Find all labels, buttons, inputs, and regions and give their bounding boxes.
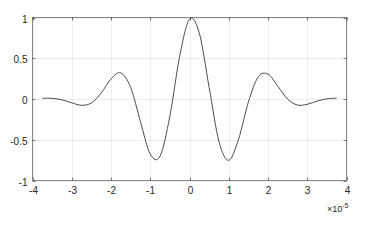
multiplier-base: ×10 xyxy=(327,204,342,214)
y-tick-labels: -1-0.500.51 xyxy=(10,14,28,188)
x-tick-label: 4 xyxy=(345,185,351,196)
x-axis-multiplier: ×10-5 xyxy=(327,202,349,214)
y-tick-label: -0.5 xyxy=(10,136,28,147)
y-tick-label: 0 xyxy=(22,95,28,106)
x-tick-label: -1 xyxy=(146,185,155,196)
y-tick-label: 1 xyxy=(22,14,28,25)
plot-area xyxy=(32,17,346,180)
x-tick-label: -4 xyxy=(29,185,38,196)
x-tick-label: -3 xyxy=(68,185,77,196)
y-tick-label: -1 xyxy=(19,177,28,188)
y-tick-label: 0.5 xyxy=(14,54,28,65)
x-tick-label: 1 xyxy=(227,185,233,196)
x-tick-label: 0 xyxy=(188,185,194,196)
multiplier-exponent: -5 xyxy=(342,202,348,209)
x-tick-labels: -4-3-2-101234 xyxy=(29,185,351,196)
x-tick-label: 3 xyxy=(305,185,311,196)
x-tick-label: -2 xyxy=(107,185,116,196)
x-tick-label: 2 xyxy=(266,185,272,196)
line-chart: -4-3-2-101234 -1-0.500.51 ×10-5 xyxy=(0,0,366,226)
